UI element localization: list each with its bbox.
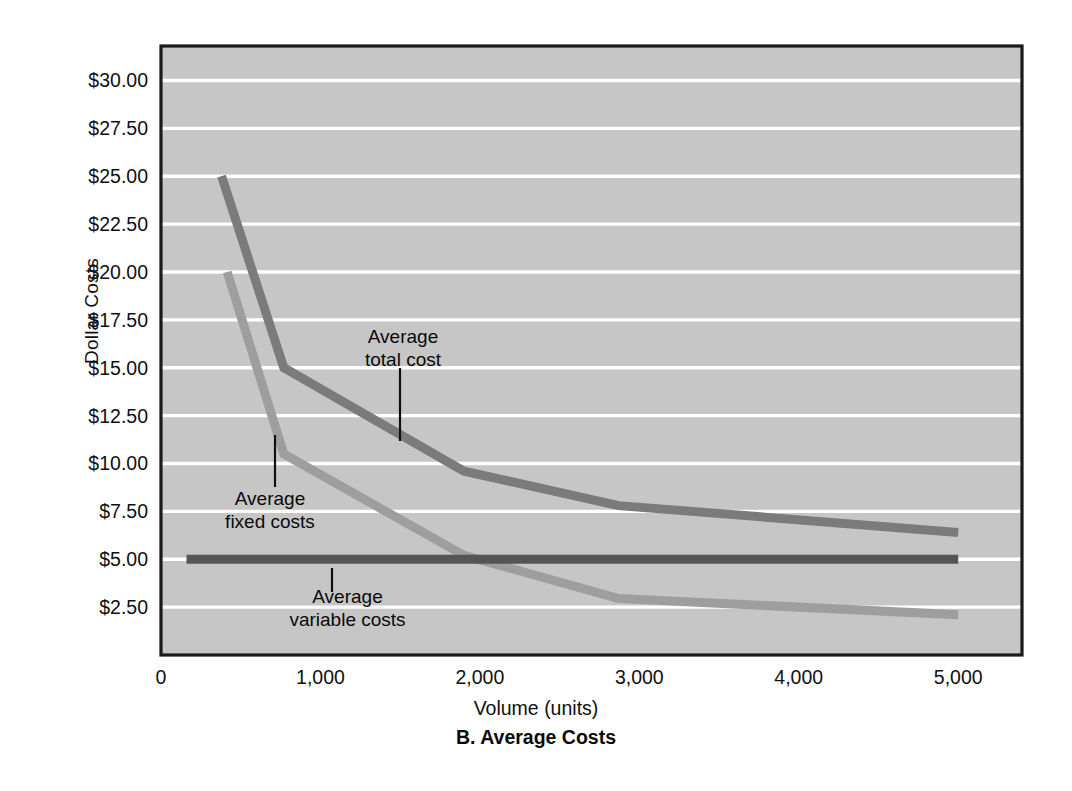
annotation-average-variable-costs: Average variable costs xyxy=(240,585,455,631)
x-tick-label: 5,000 xyxy=(888,666,1028,689)
x-tick-label: 0 xyxy=(91,666,231,689)
x-tick-label: 3,000 xyxy=(569,666,709,689)
chart-title: B. Average Costs xyxy=(0,726,1072,749)
annotation-average-fixed-costs: Average fixed costs xyxy=(180,487,360,533)
x-tick-label: 2,000 xyxy=(410,666,550,689)
x-tick-label: 4,000 xyxy=(729,666,869,689)
x-axis-title: Volume (units) xyxy=(0,697,1072,720)
x-tick-label: 1,000 xyxy=(250,666,390,689)
chart-figure: Dollar Costs $30.00 $27.50 $25.00 $22.50… xyxy=(0,0,1072,791)
annotation-average-total-cost: Average total cost xyxy=(318,325,488,371)
